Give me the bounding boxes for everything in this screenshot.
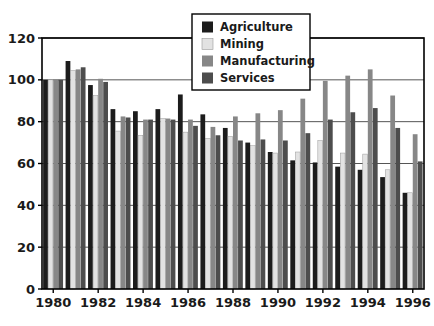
bar-agriculture-1982 <box>88 85 93 289</box>
x-tick-label: 1986 <box>170 295 206 310</box>
bar-services-1993 <box>350 112 355 289</box>
bar-services-1989 <box>261 139 266 289</box>
bar-manufacturing-1986 <box>188 120 193 289</box>
bar-services-1981 <box>81 67 86 289</box>
legend-swatch-agriculture <box>202 22 213 33</box>
x-tick-label: 1984 <box>125 295 161 310</box>
y-tick-label: 20 <box>17 240 35 255</box>
bar-mining-1982 <box>93 96 98 289</box>
bar-mining-1991 <box>295 152 300 289</box>
bar-manufacturing-1989 <box>255 113 260 289</box>
bar-services-1982 <box>103 82 108 289</box>
bar-mining-1993 <box>340 153 345 289</box>
bar-mining-1980 <box>48 80 53 289</box>
bar-services-1994 <box>373 108 378 289</box>
bar-agriculture-1988 <box>223 128 228 289</box>
legend-label-mining: Mining <box>220 37 264 51</box>
bar-group <box>66 61 86 289</box>
bar-services-1983 <box>126 117 131 289</box>
bar-manufacturing-1985 <box>166 119 171 289</box>
bar-agriculture-1987 <box>200 114 205 289</box>
bar-services-1986 <box>193 126 198 289</box>
bar-agriculture-1991 <box>290 160 295 289</box>
bar-agriculture-1980 <box>43 80 48 289</box>
bar-manufacturing-1990 <box>278 110 283 289</box>
x-tick-label: 1992 <box>305 295 341 310</box>
bar-mining-1983 <box>116 131 121 289</box>
legend-swatch-mining <box>202 39 213 50</box>
x-tick-label: 1982 <box>80 295 116 310</box>
bar-manufacturing-1994 <box>368 69 373 289</box>
legend-swatch-services <box>202 73 213 84</box>
bar-group <box>43 80 63 289</box>
bar-chart: 020406080100120 198019821984198619881990… <box>0 0 434 326</box>
bar-manufacturing-1983 <box>121 116 126 289</box>
legend-label-agriculture: Agriculture <box>220 20 293 34</box>
bar-mining-1990 <box>273 153 278 289</box>
bar-services-1991 <box>305 133 310 289</box>
bar-manufacturing-1992 <box>323 81 328 289</box>
bar-mining-1981 <box>71 70 76 289</box>
bar-services-1992 <box>328 120 333 289</box>
chart-legend: AgricultureMiningManufacturingServices <box>192 14 315 90</box>
bar-group <box>111 109 131 289</box>
bar-group <box>88 79 108 289</box>
bar-services-1988 <box>238 140 243 289</box>
bar-services-1985 <box>171 120 176 289</box>
bar-manufacturing-1996 <box>413 134 418 289</box>
bar-agriculture-1992 <box>313 162 318 289</box>
bar-mining-1987 <box>205 138 210 289</box>
bar-group <box>200 114 220 289</box>
bar-agriculture-1981 <box>66 61 71 289</box>
bar-agriculture-1989 <box>245 143 250 289</box>
y-tick-label: 40 <box>17 198 35 213</box>
bar-mining-1992 <box>318 140 323 289</box>
bar-manufacturing-1988 <box>233 116 238 289</box>
bar-agriculture-1984 <box>133 111 138 289</box>
chart-canvas: 020406080100120 198019821984198619881990… <box>0 0 434 326</box>
bar-services-1984 <box>148 120 153 289</box>
bar-mining-1989 <box>250 146 255 289</box>
bar-group <box>223 116 243 289</box>
x-tick-label: 1980 <box>35 295 71 310</box>
bar-services-1990 <box>283 140 288 289</box>
bar-agriculture-1990 <box>268 152 273 289</box>
bar-manufacturing-1987 <box>211 127 216 289</box>
bar-manufacturing-1984 <box>143 120 148 289</box>
bar-services-1980 <box>58 80 63 289</box>
bar-agriculture-1993 <box>335 167 340 289</box>
bar-services-1987 <box>216 135 221 289</box>
y-tick-label: 80 <box>17 114 35 129</box>
bar-mining-1986 <box>183 132 188 289</box>
bar-group <box>133 111 153 289</box>
x-tick-label: 1996 <box>395 295 431 310</box>
bar-mining-1995 <box>385 170 390 289</box>
bar-agriculture-1986 <box>178 94 183 289</box>
legend-label-services: Services <box>220 71 275 85</box>
bar-manufacturing-1995 <box>390 96 395 289</box>
bar-services-1995 <box>395 128 400 289</box>
bar-manufacturing-1991 <box>300 99 305 289</box>
bar-services-1996 <box>418 161 423 289</box>
bar-agriculture-1994 <box>358 170 363 289</box>
bar-mining-1996 <box>408 193 413 289</box>
bar-agriculture-1985 <box>155 109 160 289</box>
bar-manufacturing-1980 <box>53 80 58 289</box>
x-tick-label: 1990 <box>260 295 296 310</box>
x-tick-label: 1988 <box>215 295 251 310</box>
y-tick-label: 100 <box>8 72 35 87</box>
bar-manufacturing-1982 <box>98 79 103 289</box>
legend-label-manufacturing: Manufacturing <box>220 54 315 68</box>
bar-manufacturing-1993 <box>345 76 350 289</box>
bar-manufacturing-1981 <box>76 69 81 289</box>
bar-mining-1985 <box>161 119 166 289</box>
y-tick-label: 120 <box>8 31 35 46</box>
y-tick-label: 0 <box>26 282 35 297</box>
bar-mining-1984 <box>138 135 143 289</box>
bar-agriculture-1996 <box>403 193 408 289</box>
bar-agriculture-1995 <box>380 177 385 289</box>
legend-swatch-manufacturing <box>202 56 213 67</box>
bar-mining-1994 <box>363 154 368 289</box>
y-tick-label: 60 <box>17 156 35 171</box>
bar-agriculture-1983 <box>111 109 116 289</box>
